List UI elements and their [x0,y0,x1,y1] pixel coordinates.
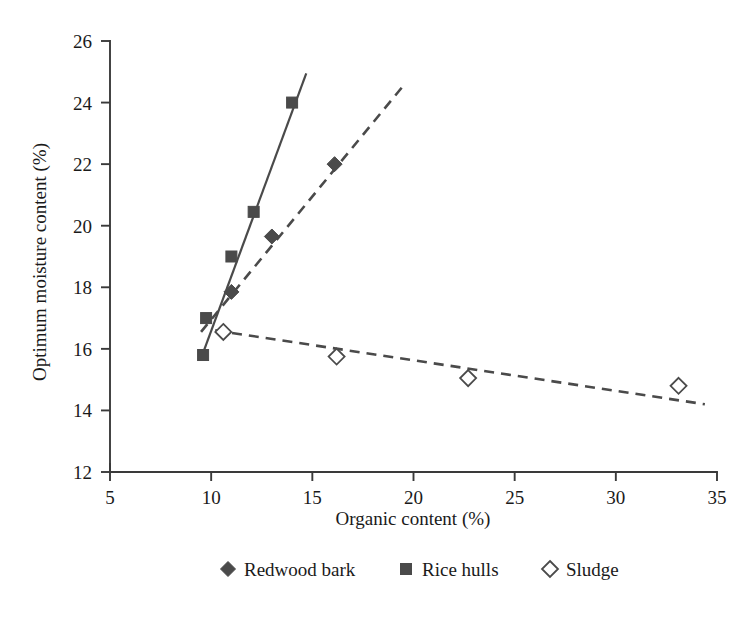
y-tick-label: 18 [73,277,92,298]
y-tick-label: 26 [73,31,92,52]
scatter-chart: 1214161820222426 5101520253035 Organic c… [0,0,749,624]
x-axis-title: Organic content (%) [336,508,491,530]
y-axis-title: Optimum moisture content (%) [29,143,51,381]
legend-label-rice-hulls: Rice hulls [422,559,499,580]
x-tick-label: 35 [708,487,727,508]
data-point [198,350,209,361]
y-tick-label: 24 [73,93,93,114]
x-tick-label: 25 [505,487,524,508]
data-point [287,97,298,108]
data-point [248,206,259,217]
x-tick-label: 5 [105,487,115,508]
legend-label-redwood-bark: Redwood bark [244,559,356,580]
chart-figure: 1214161820222426 5101520253035 Organic c… [0,0,749,624]
y-tick-label: 22 [73,154,92,175]
y-tick-label: 12 [73,462,92,483]
x-tick-label: 10 [202,487,221,508]
x-tick-label: 20 [404,487,423,508]
data-point [201,313,212,324]
x-tick-label: 30 [606,487,625,508]
y-tick-label: 14 [73,400,93,421]
y-tick-label: 16 [73,339,92,360]
legend-label-sludge: Sludge [566,559,619,580]
data-point [226,251,237,262]
y-tick-label: 20 [73,216,92,237]
legend-marker-rice-hulls [401,564,412,575]
x-tick-label: 15 [303,487,322,508]
chart-background [0,0,749,624]
